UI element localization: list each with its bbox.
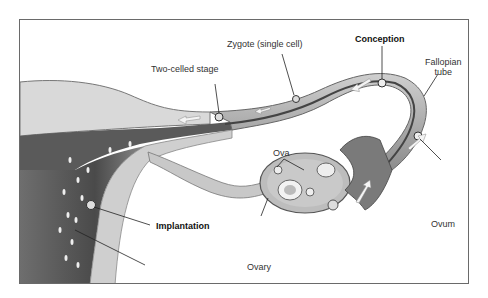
follicle (317, 163, 335, 177)
label-implantation: Implantation (156, 222, 210, 232)
reproductive-tract-illustration (20, 20, 469, 284)
label-ova: Ova (273, 149, 290, 159)
label-zygote: Zygote (single cell) (227, 40, 303, 50)
ovarian-ligament (148, 152, 270, 198)
label-two-celled-stage: Two-celled stage (151, 65, 219, 75)
released-ovum (328, 200, 338, 210)
uterine-outer-wall (90, 130, 232, 284)
label-ovary: Ovary (247, 263, 271, 273)
label-ovum: Ovum (431, 220, 455, 230)
label-fallopian-line2: tube (425, 68, 462, 78)
diagram-frame: Two-celled stage Zygote (single cell) Co… (19, 19, 469, 284)
two-celled-stage-cell (215, 113, 223, 121)
label-conception: Conception (355, 35, 405, 45)
zygote-cell (293, 96, 300, 103)
conception-cell (378, 79, 386, 87)
implanted-embryo (87, 201, 96, 210)
ovum-in-ovary (274, 166, 282, 174)
label-fallopian-tube: Fallopian tube (425, 58, 462, 78)
